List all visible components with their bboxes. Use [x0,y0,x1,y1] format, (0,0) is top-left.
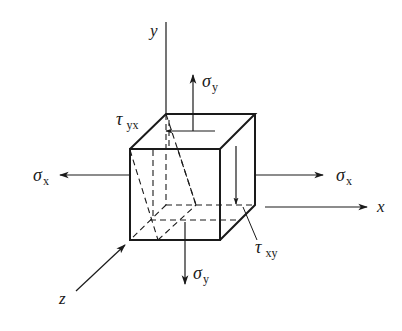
tau-yx-label: τyx [116,110,138,128]
sigma-symbol: σ [193,263,202,283]
subscript: xy [265,246,277,260]
sigma-symbol: σ [336,165,345,185]
subscript: y [203,272,209,286]
tau-xy-leader [243,207,257,240]
subscript: x [346,174,352,188]
sigma-y-top-label: σy [202,72,218,90]
sigma-x-right-label: σx [336,166,352,184]
z-axis-label: z [59,290,66,307]
subscript: y [212,80,218,94]
tau-symbol: τ [116,109,122,129]
tau-symbol: τ [255,237,261,257]
subscript: yx [126,118,138,132]
sigma-symbol: σ [33,165,42,185]
x-axis-label: x [377,198,385,215]
subscript: x [43,174,49,188]
sigma-x-left-label: σx [33,166,49,184]
sigma-y-bottom-label: σy [193,264,209,282]
tau-xy-label: τxy [255,238,277,256]
stress-element-diagram: y x z σy τyx σx σx τxy σy [0,0,402,331]
z-axis-arrow [76,245,125,291]
y-axis-label: y [150,22,158,39]
sigma-symbol: σ [202,71,211,91]
